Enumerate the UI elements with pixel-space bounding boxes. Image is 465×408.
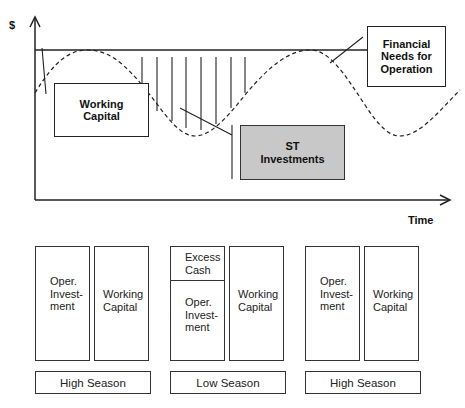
text-line: Invest- xyxy=(171,309,224,322)
text-line: Cash xyxy=(171,264,224,277)
panel3-oper-investment: Oper. Invest- ment xyxy=(305,246,360,361)
panel2-oper-investment: Oper. Invest- ment xyxy=(170,280,225,361)
text-line: Excess xyxy=(171,251,224,264)
text-line: Oper. xyxy=(36,275,89,288)
fin-needs-line1: Financial xyxy=(381,38,433,51)
text-line: ment xyxy=(306,300,359,313)
panel1-season-label: High Season xyxy=(35,371,151,394)
small-leader-line xyxy=(42,48,46,94)
text-line: Capital xyxy=(230,301,283,314)
text-line: ment xyxy=(36,300,89,313)
panel3-working-capital: Working Capital xyxy=(364,246,419,361)
st-investments-leader xyxy=(180,108,232,135)
text-line: Oper. xyxy=(171,296,224,309)
panel2-excess-cash: Excess Cash xyxy=(170,246,225,281)
working-capital-callout: Working Capital xyxy=(54,83,149,137)
text-line: Working xyxy=(365,288,418,301)
financial-needs-callout: Financial Needs for Operation xyxy=(367,26,446,87)
text-line: Capital xyxy=(95,301,148,314)
working-capital-label: Working Capital xyxy=(72,98,132,123)
text-line: ment xyxy=(171,321,224,334)
text-line: Invest- xyxy=(306,288,359,301)
panel2-working-capital: Working Capital xyxy=(229,246,284,361)
panel1-working-capital: Working Capital xyxy=(94,246,149,361)
fin-needs-line3: Operation xyxy=(381,63,433,76)
fin-needs-line2: Needs for xyxy=(381,50,433,63)
panel3-season-label: High Season xyxy=(305,371,421,394)
st-label-line1: ST xyxy=(260,140,324,153)
y-axis-label: $ xyxy=(9,19,15,31)
panel2-season-label: Low Season xyxy=(170,371,286,394)
text-line: Working xyxy=(95,288,148,301)
hatch-lines xyxy=(142,57,245,130)
text-line: Oper. xyxy=(306,275,359,288)
text-line: Capital xyxy=(365,301,418,314)
x-axis-label: Time xyxy=(408,214,433,226)
text-line: Invest- xyxy=(36,288,89,301)
st-investments-callout: ST Investments xyxy=(240,125,345,180)
st-label-line2: Investments xyxy=(260,153,324,166)
panel1-oper-investment: Oper. Invest- ment xyxy=(35,246,90,361)
text-line: Working xyxy=(230,288,283,301)
